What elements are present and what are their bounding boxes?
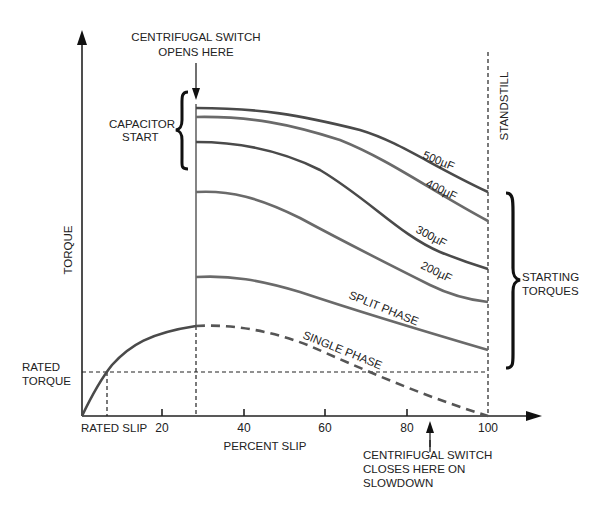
switch-opens-label-line1: CENTRIFUGAL SWITCH xyxy=(131,31,260,43)
starting-torques-label-line1: STARTING xyxy=(522,271,579,283)
label-single-phase: SINGLE PHASE xyxy=(301,329,384,372)
capacitor-start-label-line2: START xyxy=(122,131,159,143)
curve-running xyxy=(82,326,196,416)
capacitor-start-label-line1: CAPACITOR xyxy=(109,118,175,130)
rated-torque-label-line1: RATED xyxy=(22,361,60,373)
x-tick-label-20: 20 xyxy=(155,421,169,435)
switch-closes-label-line1: CENTRIFUGAL SWITCH xyxy=(363,449,492,461)
starting-torques-brace-icon xyxy=(506,193,520,368)
rated-slip-label: RATED SLIP xyxy=(81,422,148,434)
x-axis-arrow-icon xyxy=(526,411,542,421)
axes xyxy=(77,30,542,421)
curve-single-phase xyxy=(196,326,488,416)
label-300uf: 300µF xyxy=(414,223,449,249)
curve-500uf xyxy=(196,108,488,192)
label-split-phase: SPLIT PHASE xyxy=(347,289,420,328)
switch-closes-label-line3: SLOWDOWN xyxy=(363,477,433,489)
label-200uf: 200µF xyxy=(419,259,454,284)
label-500uf: 500µF xyxy=(421,149,456,172)
label-400uf: 400µF xyxy=(424,177,459,202)
x-tick-label-40: 40 xyxy=(237,421,251,435)
x-axis-label: PERCENT SLIP xyxy=(224,440,307,452)
x-tick-label-60: 60 xyxy=(318,421,332,435)
standstill-label: STANDSTILL xyxy=(498,71,510,140)
torque-slip-chart: 20 40 60 80 100 PERCENT SLIP TORQUE 500µ… xyxy=(0,0,614,511)
capacitor-start-brace-icon xyxy=(176,92,188,169)
switch-opens-label-line2: OPENS HERE xyxy=(158,46,234,58)
starting-torques-label-line2: TORQUES xyxy=(522,285,579,297)
y-axis-label: TORQUE xyxy=(62,225,74,274)
x-tick-label-80: 80 xyxy=(400,421,414,435)
x-tick-label-100: 100 xyxy=(478,421,498,435)
y-axis-arrow-icon xyxy=(77,30,87,45)
switch-opens-arrow-icon xyxy=(192,88,200,100)
curve-split-phase xyxy=(196,277,488,350)
switch-closes-label-line2: CLOSES HERE ON xyxy=(363,463,465,475)
rated-torque-label-line2: TORQUE xyxy=(22,375,71,387)
